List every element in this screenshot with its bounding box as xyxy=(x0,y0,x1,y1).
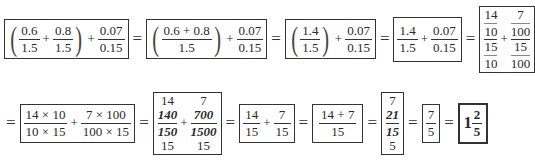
numerator: 0.07 xyxy=(237,24,264,38)
mixed-number-answer: 1 25 xyxy=(464,108,483,139)
multiplier-top: 7 xyxy=(517,8,524,22)
equals-sign: = xyxy=(133,29,143,49)
equals-sign: = xyxy=(139,113,149,133)
equals-sign: = xyxy=(380,29,390,49)
fraction: 25 xyxy=(472,108,483,139)
equals-sign: = xyxy=(226,113,236,133)
reduced-denominator: 5 xyxy=(389,139,396,153)
equals-sign: = xyxy=(367,113,377,133)
cancelled-numerator: 140 xyxy=(158,108,178,122)
denominator: 10 × 15 xyxy=(24,125,68,139)
multiplier-top: 14 xyxy=(484,8,497,22)
numerator: 1.4 xyxy=(397,24,417,38)
right-paren: ) xyxy=(75,22,82,56)
cancelled-denominator: 15 xyxy=(386,125,399,139)
equals-sign: = xyxy=(299,113,309,133)
cancelled-numerator: 700 xyxy=(194,108,214,122)
plus-operator: + xyxy=(43,31,50,47)
denominator: 0.15 xyxy=(431,41,458,55)
step-1-box: ( 0.61.5 + 0.81.5 ) + 0.070.15 xyxy=(4,19,129,59)
plus-operator: + xyxy=(263,115,270,131)
cancelled-numerator: 21 xyxy=(386,108,399,122)
complex-fraction: 7 100 15 100 xyxy=(511,8,531,71)
left-paren: ( xyxy=(152,22,159,56)
right-paren: ) xyxy=(323,22,330,56)
denominator: 0.15 xyxy=(237,41,264,55)
cancelled-denominator: 1500 xyxy=(191,125,217,139)
denominator: 100 × 15 xyxy=(81,125,131,139)
numerator: 7 × 100 xyxy=(84,108,128,122)
denominator: 0.15 xyxy=(98,41,125,55)
numerator: 0.6 + 0.8 xyxy=(162,24,212,38)
cancelled-fraction: 7 21 15 5 xyxy=(386,94,399,153)
step-6-box: 14 × 1010 × 15 + 7 × 100100 × 15 xyxy=(20,104,136,143)
right-paren: ) xyxy=(214,22,221,56)
equals-sign: = xyxy=(444,113,454,133)
denominator: 1.5 xyxy=(397,41,417,55)
denominator: 15 xyxy=(243,125,260,139)
equals-sign: = xyxy=(271,29,281,49)
denominator: 1.5 xyxy=(19,41,39,55)
whole-part: 1 xyxy=(464,114,472,132)
numerator: 10 xyxy=(484,25,497,39)
denominator: 5 xyxy=(472,125,483,139)
equation-row-1: ( 0.61.5 + 0.81.5 ) + 0.070.15 = ( 0.6 +… xyxy=(4,4,535,74)
fraction: 0.070.15 xyxy=(345,24,372,55)
numerator: 0.8 xyxy=(53,24,73,38)
plus-operator: + xyxy=(500,31,507,47)
step-9-box: 14 + 715 xyxy=(312,104,363,143)
fraction: 0.070.15 xyxy=(431,24,458,55)
step-8-box: 1415 + 715 xyxy=(239,104,294,143)
step-7-box: 14 140 150 15 + 7 700 1500 15 xyxy=(153,92,222,155)
reduced-denominator: 15 xyxy=(197,139,210,153)
fraction: 0.61.5 xyxy=(19,24,39,55)
denominator: 15 xyxy=(274,125,291,139)
numerator: 14 × 10 xyxy=(24,108,68,122)
fraction: 0.81.5 xyxy=(53,24,73,55)
numerator: 7 xyxy=(277,108,288,122)
denominator: 1.5 xyxy=(300,41,320,55)
fraction: 1.41.5 xyxy=(300,24,320,55)
numerator: 0.6 xyxy=(19,24,39,38)
fraction: 14 + 715 xyxy=(319,108,356,139)
fraction: 75 xyxy=(426,108,437,139)
reduced-numerator: 7 xyxy=(389,94,396,108)
numerator: 100 xyxy=(511,25,531,39)
numerator: 1.4 xyxy=(300,24,320,38)
reduced-numerator: 14 xyxy=(161,94,174,108)
fraction: 0.070.15 xyxy=(237,24,264,55)
numerator: 7 xyxy=(426,108,437,122)
cancelled-fraction: 7 700 1500 15 xyxy=(191,94,217,153)
denominator: 0.15 xyxy=(345,41,372,55)
numerator: 0.07 xyxy=(431,24,458,38)
numerator: 0.07 xyxy=(345,24,372,38)
equals-sign: = xyxy=(408,113,418,133)
equation-row-2: = 14 × 1010 × 15 + 7 × 100100 × 15 = 14 … xyxy=(6,86,488,160)
step-3-box: ( 1.41.5 ) + 0.070.15 xyxy=(285,19,376,59)
denominator: 15 xyxy=(514,40,527,54)
fraction: 0.6 + 0.81.5 xyxy=(162,24,212,55)
numerator: 14 xyxy=(243,108,260,122)
step-11-box: 75 xyxy=(422,104,441,143)
left-paren: ( xyxy=(291,22,298,56)
plus-operator: + xyxy=(70,115,77,131)
denominator: 1.5 xyxy=(177,41,197,55)
step-5-box: 14 10 15 10 + 7 100 15 100 xyxy=(479,6,535,73)
fraction: 715 xyxy=(274,108,291,139)
denominator: 15 xyxy=(329,125,346,139)
fraction: 0.070.15 xyxy=(98,24,125,55)
cancelled-denominator: 150 xyxy=(158,125,178,139)
equals-sign: = xyxy=(466,29,476,49)
denominator: 1.5 xyxy=(53,41,73,55)
multiplier-bottom: 100 xyxy=(511,57,531,71)
plus-operator: + xyxy=(421,31,428,47)
step-4-box: 1.41.5 + 0.070.15 xyxy=(393,17,461,62)
plus-operator: + xyxy=(180,115,187,131)
plus-operator: + xyxy=(226,31,233,47)
plus-operator: + xyxy=(88,31,95,47)
reduced-numerator: 7 xyxy=(200,94,207,108)
plus-operator: + xyxy=(335,31,342,47)
equals-sign: = xyxy=(6,113,16,133)
answer-box: 1 25 xyxy=(458,103,489,144)
multiplier-bottom: 10 xyxy=(484,57,497,71)
